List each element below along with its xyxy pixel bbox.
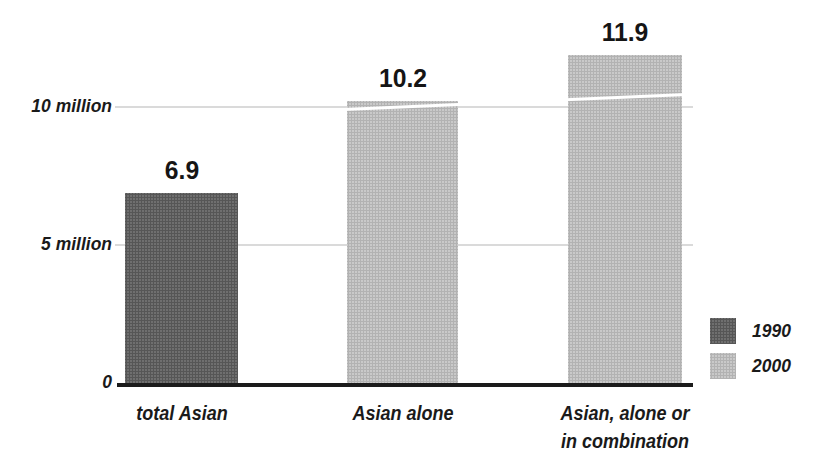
bar-1 — [347, 101, 458, 383]
legend-label-1990: 1990 — [752, 320, 791, 342]
category-label-0: total Asian — [136, 399, 227, 427]
legend-swatch-2000 — [710, 353, 736, 379]
y-tick-label-5: 5 million — [9, 233, 112, 255]
bar-value-label: 11.9 — [602, 19, 649, 45]
bar-2 — [568, 55, 682, 383]
category-label-line: in combination — [560, 427, 689, 455]
category-label-2: Asian, alone orin combination — [560, 399, 689, 455]
category-label-line: Asian, alone or — [560, 399, 689, 427]
category-label-line: total Asian — [136, 399, 227, 427]
bar-0 — [125, 193, 238, 383]
legend-label-2000: 2000 — [752, 355, 791, 377]
legend-swatch-1990 — [710, 318, 736, 344]
legend-item-1990: 1990 — [710, 318, 794, 344]
category-label-1: Asian alone — [352, 399, 453, 427]
bar-value-label: 6.9 — [164, 157, 198, 183]
y-tick-label-10: 10 million — [9, 95, 112, 117]
y-tick-label-0: 0 — [9, 371, 112, 393]
population-bar-chart-figure: 6.910.211.9 05 million10 million total A… — [0, 0, 830, 456]
legend: 19902000 — [710, 318, 794, 388]
x-axis-line — [117, 383, 693, 387]
legend-item-2000: 2000 — [710, 353, 794, 379]
bar-value-label: 10.2 — [378, 65, 426, 91]
category-label-line: Asian alone — [352, 399, 453, 427]
